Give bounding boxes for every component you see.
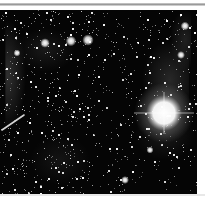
bottom-rule bbox=[0, 194, 205, 196]
left-star-field-panel bbox=[0, 10, 95, 194]
right-star-field-panel bbox=[95, 10, 197, 194]
right-panel-canvas bbox=[95, 10, 197, 194]
left-panel-canvas bbox=[0, 10, 95, 194]
star-field-figure bbox=[0, 10, 197, 194]
top-rule bbox=[0, 3, 205, 6]
astronomy-figure-page bbox=[0, 0, 205, 207]
